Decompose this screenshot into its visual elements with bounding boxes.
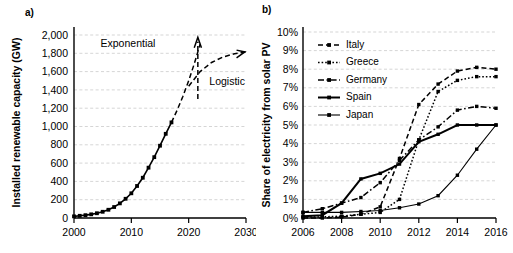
data-point — [340, 201, 343, 204]
y-axis-title: Share of electricity from solar PV — [260, 42, 272, 207]
y-tick-label: 10% — [277, 26, 298, 38]
y-axis-title: Installed renewable capacity (GW) — [10, 38, 22, 208]
x-tick-label: 2006 — [291, 226, 315, 238]
data-point — [141, 176, 145, 180]
data-point — [417, 202, 420, 205]
data-point — [436, 133, 439, 136]
legend-marker-italy — [327, 43, 331, 47]
y-tick-label: 1,200 — [42, 102, 68, 114]
data-point — [84, 213, 88, 217]
data-point — [301, 214, 304, 217]
data-point — [379, 209, 382, 212]
x-tick-label: 2010 — [369, 226, 393, 238]
data-point — [152, 155, 156, 159]
data-point — [147, 166, 151, 170]
data-point — [340, 211, 343, 214]
x-tick-label: 2012 — [407, 226, 431, 238]
data-point — [359, 196, 362, 199]
y-tick-label: 400 — [50, 175, 68, 187]
legend-label-greece: Greece — [346, 56, 379, 67]
figure-container: a) 02004006008001,0001,2001,4001,6001,80… — [0, 0, 513, 253]
panel-a-chart: 02004006008001,0001,2001,4001,6001,8002,… — [0, 0, 256, 253]
panel-b-label: b) — [262, 4, 271, 15]
data-point — [494, 75, 497, 78]
y-tick-label: 600 — [50, 157, 68, 169]
y-tick-label: 800 — [50, 138, 68, 150]
y-tick-label: 1,600 — [42, 65, 68, 77]
data-point — [456, 69, 459, 72]
data-point — [379, 205, 382, 208]
data-point — [124, 197, 128, 201]
y-tick-label: 0% — [283, 212, 298, 224]
series-line-exponential-projection — [171, 44, 200, 122]
data-point — [359, 177, 362, 180]
y-tick-label: 0 — [62, 212, 68, 224]
y-tick-label: 200 — [50, 193, 68, 205]
data-point — [301, 211, 304, 214]
y-tick-label: 2% — [283, 174, 298, 186]
x-tick-label: 2020 — [177, 226, 201, 238]
data-point — [379, 172, 382, 175]
series-line-spain — [303, 125, 496, 216]
data-point — [135, 184, 139, 188]
data-point — [89, 212, 93, 216]
x-tick-label: 2008 — [330, 226, 354, 238]
data-point — [321, 207, 324, 210]
data-point — [359, 210, 362, 213]
y-tick-label: 1% — [283, 193, 298, 205]
data-point — [456, 108, 459, 111]
x-tick-label: 2010 — [120, 226, 144, 238]
legend-marker-greece — [327, 61, 331, 65]
data-point — [398, 162, 401, 165]
data-point — [417, 140, 420, 143]
data-point — [475, 147, 478, 150]
data-point — [379, 181, 382, 184]
y-tick-label: 1,800 — [42, 47, 68, 59]
data-point — [456, 174, 459, 177]
y-tick-label: 1,000 — [42, 120, 68, 132]
legend-label-germany: Germany — [346, 74, 387, 85]
panel-a-plot: 02004006008001,0001,2001,4001,6001,8002,… — [10, 27, 256, 238]
data-point — [436, 194, 439, 197]
data-point — [475, 105, 478, 108]
panel-a: a) 02004006008001,0001,2001,4001,6001,80… — [0, 0, 256, 253]
y-tick-label: 6% — [283, 100, 298, 112]
data-point — [494, 123, 497, 126]
x-tick-label: 2000 — [62, 226, 86, 238]
y-tick-label: 9% — [283, 44, 298, 56]
legend-label-italy: Italy — [346, 39, 364, 50]
x-tick-label: 2016 — [484, 226, 508, 238]
x-tick-label: 2030 — [234, 226, 256, 238]
data-point — [456, 123, 459, 126]
data-point — [101, 210, 105, 214]
panel-b-chart: 0%1%2%3%4%5%6%7%8%9%10%20062008201020122… — [256, 0, 513, 253]
panel-a-label: a) — [25, 7, 34, 18]
data-point — [95, 211, 99, 215]
data-point — [72, 214, 76, 218]
panel-b-plot: 0%1%2%3%4%5%6%7%8%9%10%20062008201020122… — [260, 26, 508, 238]
data-point — [436, 125, 439, 128]
data-point — [78, 214, 82, 218]
data-point — [475, 66, 478, 69]
data-point — [321, 211, 324, 214]
data-point — [112, 205, 116, 209]
data-point — [164, 132, 168, 136]
y-tick-label: 1,400 — [42, 84, 68, 96]
data-point — [475, 75, 478, 78]
y-tick-label: 4% — [283, 137, 298, 149]
x-tick-label: 2014 — [446, 226, 470, 238]
data-point — [118, 201, 122, 205]
y-tick-label: 7% — [283, 81, 298, 93]
legend-marker-spain — [327, 96, 331, 100]
legend-marker-germany — [327, 78, 331, 82]
annotation-label: Logistic — [209, 75, 245, 87]
data-point — [436, 82, 439, 85]
y-tick-label: 3% — [283, 156, 298, 168]
annotation-label: Exponential — [101, 37, 156, 49]
data-point — [340, 214, 343, 217]
legend-marker-japan — [327, 113, 331, 117]
data-point — [494, 107, 497, 110]
logistic-arrow-head — [237, 50, 245, 58]
panel-b: b) 0%1%2%3%4%5%6%7%8%9%10%20062008201020… — [256, 0, 513, 253]
data-point — [398, 198, 401, 201]
